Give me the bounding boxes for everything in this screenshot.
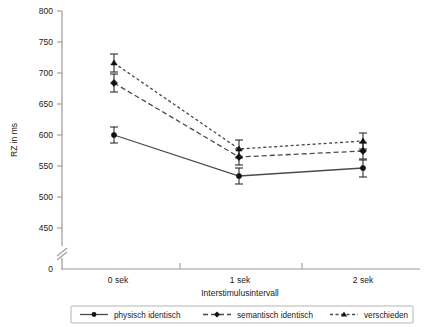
y-tick-label-650: 650 [39,99,53,109]
legend-marker-diamond [214,312,220,318]
x-tick-group [180,263,302,269]
data-marker-triangle [360,138,366,143]
x-tick-label-1sek: 1 sek [230,275,251,285]
y-tick-label-600: 600 [39,130,53,140]
series-semantisch-identisch [110,74,367,165]
y-tick-label-800: 800 [39,6,53,16]
y-tick-label-500: 500 [39,192,53,202]
y-tick-label-450: 450 [39,223,53,233]
legend-label-semantisch-identisch: semantisch identisch [237,311,313,320]
data-marker-circle [111,132,116,137]
data-marker-diamond [111,80,118,87]
reaction-time-line-chart: RZ in ms 800 750 700 650 600 550 500 450… [0,0,430,327]
y-tick-label-750: 750 [39,37,53,47]
y-tick-label-0: 0 [48,264,53,274]
data-marker-triangle [111,60,117,65]
series-verschieden [110,54,367,158]
x-tick-label-2sek: 2 sek [353,275,374,285]
x-axis-title: Interstimulusintervall [201,288,279,298]
y-tick-label-550: 550 [39,161,53,171]
data-marker-circle [360,165,365,170]
legend-label-verschieden: verschieden [364,311,409,320]
legend-item-physisch-identisch[interactable]: physisch identisch [80,311,181,320]
y-tick-label-700: 700 [39,68,53,78]
x-tick-label-0sek: 0 sek [108,275,129,285]
data-marker-diamond [236,154,243,161]
data-marker-circle [236,173,241,178]
legend-label-physisch-identisch: physisch identisch [114,311,181,320]
legend-marker-circle [92,312,97,317]
legend-item-verschieden[interactable]: verschieden [330,311,409,320]
y-tick-group [57,11,62,228]
chart-legend: physisch identisch semantisch identisch … [71,306,413,323]
y-axis-title: RZ in ms [9,123,19,157]
legend-item-semantisch-identisch[interactable]: semantisch identisch [203,311,313,320]
